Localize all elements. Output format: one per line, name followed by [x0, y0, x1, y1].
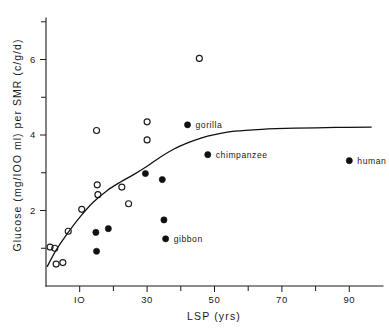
y-axis-tick-labels: 246	[30, 54, 36, 216]
x-axis-tick-labels: IO30507090	[74, 294, 355, 305]
x-tick-label: 50	[209, 294, 221, 305]
scatter-plot: 246 IO30507090 gorillachimpanzeehumangib…	[0, 0, 389, 333]
x-axis-title: LSP (yrs)	[187, 310, 241, 322]
x-axis-ticks	[80, 286, 350, 292]
data-point-filled	[93, 229, 99, 235]
y-axis-ticks	[40, 22, 46, 248]
data-point-open	[126, 201, 132, 207]
data-point-filled	[159, 176, 165, 182]
data-point-open	[60, 260, 66, 266]
data-point-open	[94, 182, 100, 188]
y-tick-label: 4	[30, 129, 36, 140]
data-point-filled	[161, 217, 167, 223]
y-tick-label: 2	[30, 205, 36, 216]
data-point-filled	[205, 152, 211, 158]
y-tick-label: 6	[30, 54, 36, 65]
x-tick-label: 90	[343, 294, 355, 305]
data-point-open	[144, 119, 150, 125]
data-point-filled	[346, 158, 352, 164]
data-point-filled	[105, 226, 111, 232]
x-tick-label: 70	[276, 294, 288, 305]
filled-circle-data-points	[93, 122, 353, 255]
data-point-label: human	[357, 156, 386, 166]
data-point-filled	[184, 122, 190, 128]
data-point-filled	[163, 236, 169, 242]
data-point-filled	[93, 248, 99, 254]
data-point-open	[119, 184, 125, 190]
data-point-open	[144, 137, 150, 143]
data-point-label: chimpanzee	[216, 150, 268, 160]
data-point-open	[94, 127, 100, 133]
data-point-open	[196, 55, 202, 61]
data-point-label: gorilla	[196, 120, 223, 130]
x-tick-label: 30	[141, 294, 153, 305]
data-point-open	[79, 206, 85, 212]
axes	[46, 18, 383, 286]
data-point-annotations: gorillachimpanzeehumangibbon	[174, 120, 387, 244]
data-point-open	[95, 192, 101, 198]
figure-container: 246 IO30507090 gorillachimpanzeehumangib…	[0, 0, 389, 333]
data-point-label: gibbon	[174, 234, 203, 244]
data-point-open	[53, 261, 59, 267]
x-tick-label: IO	[74, 294, 85, 305]
data-point-filled	[142, 170, 148, 176]
